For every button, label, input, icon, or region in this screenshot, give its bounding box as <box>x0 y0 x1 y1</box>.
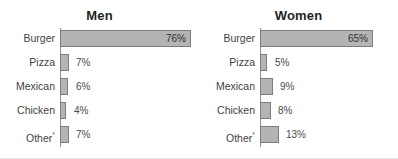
bar-value-label: 7% <box>76 128 90 141</box>
bar-value-label: 9% <box>280 80 294 93</box>
bar-row: Burger 76% <box>0 28 199 52</box>
category-label: Pizza <box>200 56 255 69</box>
category-label-text: Pizza <box>29 56 55 68</box>
bar-men-pizza <box>60 54 69 71</box>
bar-value-label: 7% <box>76 56 90 69</box>
category-label: Burger <box>200 32 255 45</box>
chart-panel-men: Men Burger 76% Pizza 7% Mexican 6% <box>0 0 199 159</box>
bar-row: Pizza 7% <box>0 52 199 76</box>
category-label-text: Burger <box>23 32 55 44</box>
category-label: Mexican <box>0 80 55 93</box>
panel-title-women: Women <box>199 8 398 23</box>
footnote-marker: * <box>252 131 255 138</box>
category-label-text: Other <box>226 132 252 144</box>
bar-row: Chicken 4% <box>0 100 199 124</box>
bar-value-label: 4% <box>74 104 88 117</box>
bar-row: Other* 13% <box>199 124 398 148</box>
bar-row: Mexican 6% <box>0 76 199 100</box>
bar-row: Burger 65% <box>199 28 398 52</box>
bar-value-label: 6% <box>76 80 90 93</box>
bar-row: Chicken 8% <box>199 100 398 124</box>
panel-title-men: Men <box>0 8 199 23</box>
category-label: Burger <box>0 32 55 45</box>
category-label-text: Chicken <box>217 104 255 116</box>
bar-row: Other* 7% <box>0 124 199 148</box>
category-label: Pizza <box>0 56 55 69</box>
category-label-text: Mexican <box>16 80 55 92</box>
bar-men-chicken <box>60 102 66 119</box>
bar-value-label: 5% <box>275 56 289 69</box>
category-label-text: Chicken <box>17 104 55 116</box>
bar-women-other <box>260 126 279 143</box>
footnote-marker: * <box>52 131 55 138</box>
category-label-text: Burger <box>223 32 255 44</box>
bar-value-label: 65% <box>332 32 368 45</box>
category-label: Chicken <box>200 104 255 117</box>
category-label-text: Pizza <box>229 56 255 68</box>
category-label: Other* <box>0 128 55 145</box>
bar-row: Mexican 9% <box>199 76 398 100</box>
bar-women-pizza <box>260 54 267 71</box>
bar-row: Pizza 5% <box>199 52 398 76</box>
bar-women-chicken <box>260 102 271 119</box>
bar-value-label: 76% <box>150 32 186 45</box>
bar-women-mexican <box>260 78 273 95</box>
category-label-text: Mexican <box>216 80 255 92</box>
bar-men-mexican <box>60 78 68 95</box>
category-label: Chicken <box>0 104 55 117</box>
bar-men-other <box>60 126 69 143</box>
plot-area-women: Burger 65% Pizza 5% Mexican 9% Chicken 8… <box>199 28 398 150</box>
category-label-text: Other <box>26 132 52 144</box>
two-panel-bar-chart-figure: Men Burger 76% Pizza 7% Mexican 6% <box>0 0 398 159</box>
category-label: Mexican <box>200 80 255 93</box>
plot-area-men: Burger 76% Pizza 7% Mexican 6% Chicken 4… <box>0 28 199 150</box>
bar-value-label: 8% <box>278 104 292 117</box>
bar-value-label: 13% <box>286 128 306 141</box>
chart-panel-women: Women Burger 65% Pizza 5% Mexican 9% <box>199 0 398 159</box>
category-label: Other* <box>200 128 255 145</box>
